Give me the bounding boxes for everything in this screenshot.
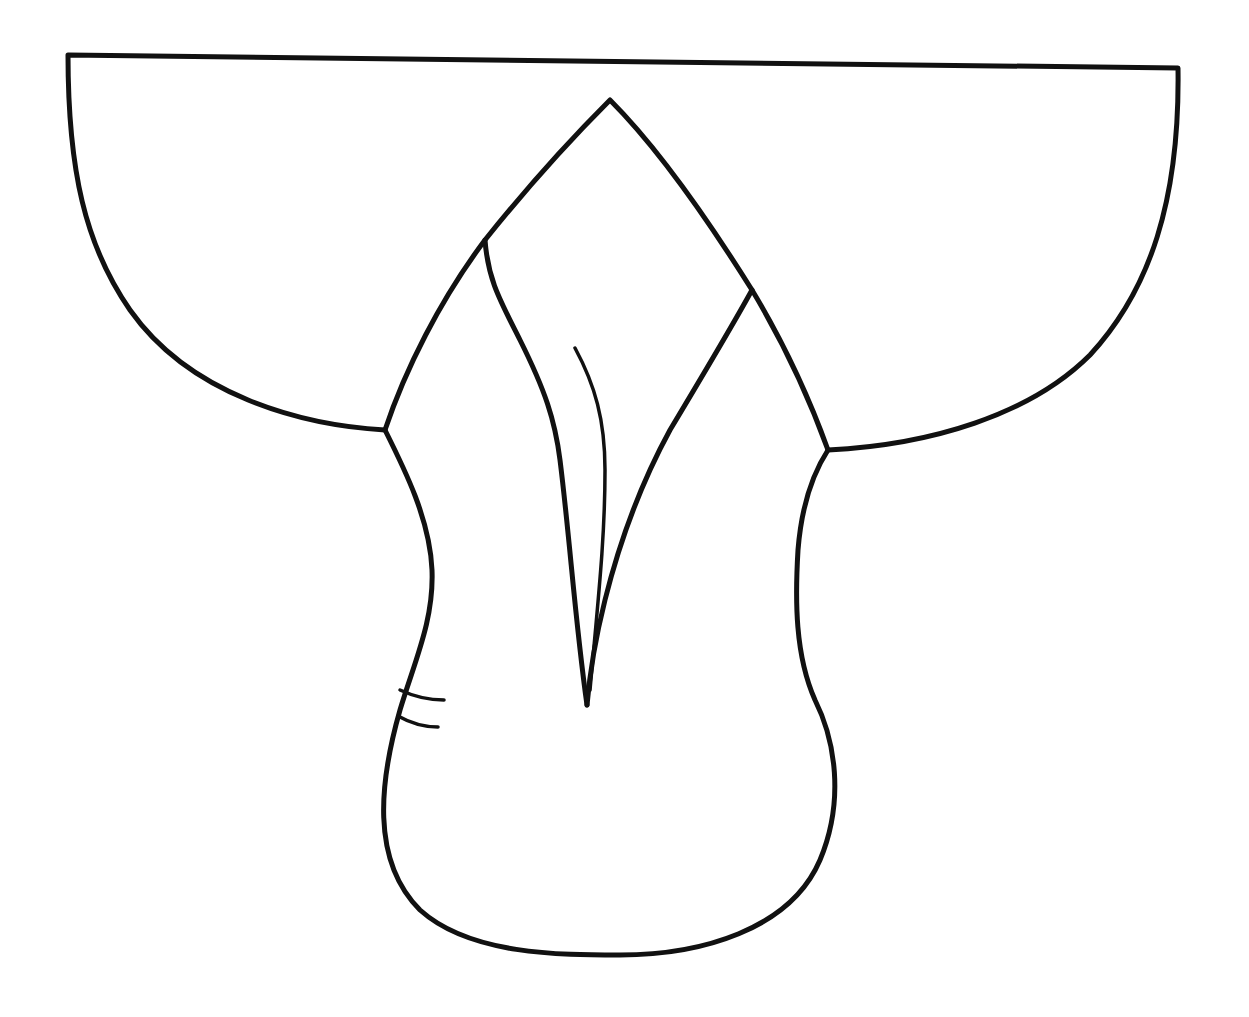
line-drawing: [0, 0, 1249, 1017]
background: [0, 0, 1249, 1017]
